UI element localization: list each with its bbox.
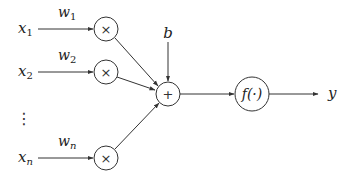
input-n-label: xn <box>18 148 33 167</box>
multiply-icon: × <box>101 151 112 166</box>
input-n: xn wn × <box>18 133 118 170</box>
weight-n-label: wn <box>58 133 76 151</box>
input-1-label: x1 <box>18 19 33 38</box>
input-1: x1 w1 × <box>18 4 118 41</box>
input-2-label: x2 <box>18 62 33 81</box>
activation-label: f(·) <box>241 86 263 102</box>
input-2: x2 w2 × <box>18 47 118 84</box>
multiply-icon: × <box>101 65 112 80</box>
multiply-icon: × <box>101 22 112 37</box>
bias-label: b <box>163 24 173 42</box>
neuron-diagram: x1 w1 × x2 w2 × ⋮ xn wn × b <box>0 0 351 184</box>
edge-n-to-sum <box>115 103 159 149</box>
output-label: y <box>327 84 337 102</box>
ellipsis-vertical: ⋮ <box>16 109 32 128</box>
plus-icon: + <box>163 87 174 102</box>
edge-2-to-sum <box>117 77 155 90</box>
weight-2-label: w2 <box>58 47 76 65</box>
neuron-diagram-svg: x1 w1 × x2 w2 × ⋮ xn wn × b <box>0 0 351 184</box>
weight-1-label: w1 <box>58 4 76 22</box>
